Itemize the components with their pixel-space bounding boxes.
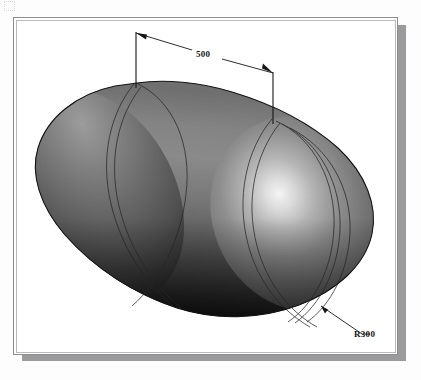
- capsule-illustration: [14, 18, 399, 356]
- arrowhead-left: [136, 33, 147, 40]
- figure-canvas: [14, 18, 399, 356]
- page-root: 500 R300: [0, 0, 421, 380]
- leader-arrowhead: [321, 306, 328, 314]
- lower-shadow-band: [14, 218, 399, 328]
- scan-speck-artifact: [4, 1, 15, 11]
- capsule-body: [14, 61, 399, 343]
- dimension-label-length: 500: [196, 49, 210, 59]
- dimension-label-radius: R300: [354, 329, 375, 339]
